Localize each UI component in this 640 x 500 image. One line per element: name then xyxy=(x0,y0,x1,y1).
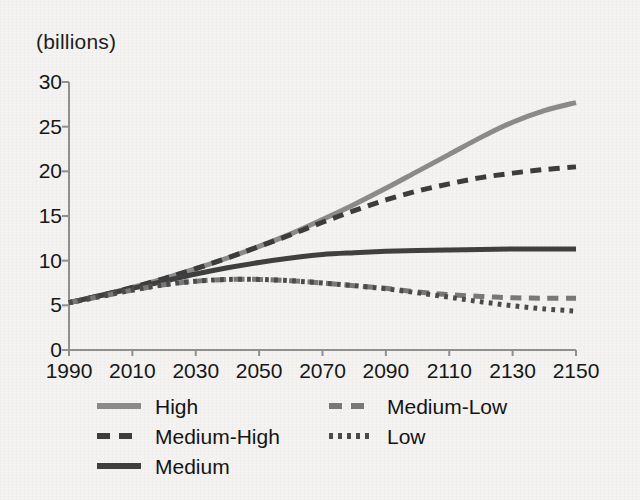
y-axis-tick-labels: 051015202530 xyxy=(24,0,62,500)
y-tick-label: 10 xyxy=(28,250,62,271)
legend-swatch-icon xyxy=(96,429,142,443)
y-tick-label: 5 xyxy=(28,294,62,315)
x-tick-label: 2010 xyxy=(109,360,156,381)
legend-label: Low xyxy=(387,426,426,447)
legend-label: High xyxy=(155,396,198,417)
legend-label: Medium-Low xyxy=(387,396,507,417)
x-axis-tick-labels: 199020102030205020702090211021302150 xyxy=(0,356,640,386)
series-line-medium xyxy=(69,249,576,303)
chart-legend: HighMedium-HighMediumMedium-LowLow xyxy=(96,392,596,492)
legend-swatch-icon xyxy=(96,399,142,413)
x-tick-label: 1990 xyxy=(46,360,93,381)
legend-swatch-icon xyxy=(328,429,374,443)
x-tick-label: 2130 xyxy=(489,360,536,381)
chart-figure: (billions) 051015202530 1990201020302050… xyxy=(0,0,640,500)
y-tick-label: 15 xyxy=(28,205,62,226)
legend-item-medium[interactable]: Medium xyxy=(96,452,230,480)
x-tick-label: 2090 xyxy=(363,360,410,381)
legend-item-medium-low[interactable]: Medium-Low xyxy=(328,392,507,420)
y-axis-tick-marks xyxy=(62,82,69,350)
legend-swatch-icon xyxy=(96,459,142,473)
y-tick-label: 30 xyxy=(28,71,62,92)
y-tick-label: 20 xyxy=(28,160,62,181)
x-tick-label: 2050 xyxy=(236,360,283,381)
legend-item-medium-high[interactable]: Medium-High xyxy=(96,422,280,450)
data-series-group xyxy=(69,103,576,312)
x-tick-label: 2030 xyxy=(172,360,219,381)
x-tick-label: 2110 xyxy=(427,360,472,381)
x-tick-label: 2070 xyxy=(299,360,346,381)
legend-swatch-icon xyxy=(328,399,374,413)
legend-label: Medium-High xyxy=(155,426,280,447)
legend-item-high[interactable]: High xyxy=(96,392,198,420)
legend-item-low[interactable]: Low xyxy=(328,422,426,450)
series-line-high xyxy=(69,103,576,303)
y-tick-label: 25 xyxy=(28,116,62,137)
legend-label: Medium xyxy=(155,456,230,477)
x-tick-label: 2150 xyxy=(553,360,600,381)
